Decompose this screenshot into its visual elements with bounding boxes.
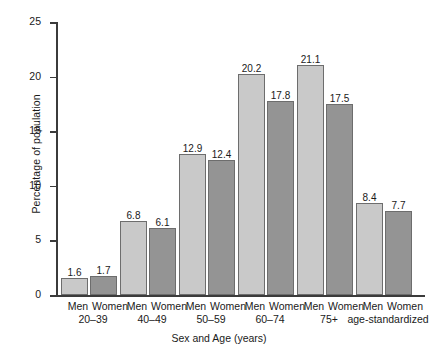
bar-value-men-40-49: 6.8	[127, 210, 141, 221]
y-tick-10: 10	[50, 186, 56, 188]
bar-men-20-39[interactable]: 1.6	[61, 278, 88, 296]
y-tick-5: 5	[50, 240, 56, 242]
y-tick-label-0: 0	[35, 288, 41, 300]
bar-men-40-49[interactable]: 6.8	[120, 221, 147, 295]
x-men-label-age-standardized: Men	[359, 300, 387, 313]
x-range-label-age-standardized: age-standardized	[342, 313, 434, 326]
y-axis-line	[56, 22, 58, 295]
bar-value-men-75-plus: 21.1	[301, 54, 320, 65]
x-women-label-age-standardized: Women	[387, 300, 417, 313]
bar-value-women-20-39: 1.7	[97, 265, 111, 276]
x-sex-labels-age-standardized: MenWomen	[342, 300, 434, 313]
x-category-age-standardized: MenWomen age-standardized	[342, 300, 434, 326]
bar-value-women-60-74: 17.8	[271, 90, 290, 101]
bar-value-women-40-49: 6.1	[156, 217, 170, 228]
bar-men-age-standardized[interactable]: 8.4	[356, 203, 383, 295]
y-tick-15: 15	[50, 131, 56, 133]
bar-women-50-59[interactable]: 12.4	[208, 160, 235, 295]
y-tick-20: 20	[50, 77, 56, 79]
bar-chart: Percentage of population 0 5 10 15 20 25…	[0, 0, 438, 357]
bar-value-women-50-59: 12.4	[212, 149, 231, 160]
bar-men-60-74[interactable]: 20.2	[238, 74, 265, 295]
y-tick-label-15: 15	[29, 124, 41, 136]
bar-women-60-74[interactable]: 17.8	[267, 101, 294, 295]
y-tick-label-25: 25	[29, 15, 41, 27]
y-tick-0: 0	[50, 295, 56, 297]
bar-women-75-plus[interactable]: 17.5	[326, 104, 353, 295]
x-men-label-75-plus: Men	[300, 300, 328, 313]
x-men-label-50-59: Men	[182, 300, 210, 313]
x-axis-title: Sex and Age (years)	[0, 332, 438, 344]
bar-value-men-age-standardized: 8.4	[363, 192, 377, 203]
bar-value-men-50-59: 12.9	[183, 143, 202, 154]
x-men-label-40-49: Men	[123, 300, 151, 313]
x-men-label-20-39: Men	[64, 300, 92, 313]
bar-men-75-plus[interactable]: 21.1	[297, 65, 324, 295]
x-men-label-60-74: Men	[241, 300, 269, 313]
bar-value-men-20-39: 1.6	[68, 267, 82, 278]
y-tick-25: 25	[50, 22, 56, 24]
y-tick-label-5: 5	[35, 233, 41, 245]
bar-men-50-59[interactable]: 12.9	[179, 154, 206, 295]
x-axis-line	[56, 295, 425, 297]
bar-women-40-49[interactable]: 6.1	[149, 228, 176, 295]
bar-value-men-60-74: 20.2	[242, 63, 261, 74]
y-tick-label-10: 10	[29, 179, 41, 191]
bar-women-age-standardized[interactable]: 7.7	[385, 211, 412, 295]
y-tick-label-20: 20	[29, 70, 41, 82]
bar-value-women-75-plus: 17.5	[330, 93, 349, 104]
bar-value-women-age-standardized: 7.7	[392, 200, 406, 211]
plot-area: 0 5 10 15 20 25 1.6 1.7 6.8	[56, 22, 425, 295]
bar-women-20-39[interactable]: 1.7	[90, 276, 117, 295]
